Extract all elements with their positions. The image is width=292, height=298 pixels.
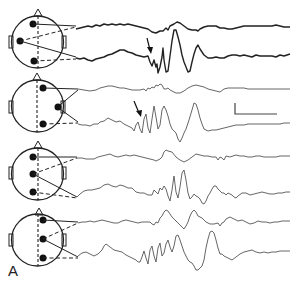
- nose-icon: [34, 141, 42, 148]
- eeg-figure: A: [0, 0, 292, 298]
- scale-bar: [235, 103, 277, 114]
- eeg-trace: [77, 170, 290, 204]
- panel-label: A: [8, 262, 18, 279]
- eeg-trace: [76, 22, 290, 33]
- eeg-trace: [78, 210, 290, 229]
- nose-icon: [33, 73, 41, 80]
- montage-2: [9, 73, 290, 142]
- montage-4: [9, 208, 290, 270]
- eeg-trace: [78, 231, 290, 270]
- eeg-trace: [78, 103, 290, 142]
- eeg-trace: [78, 84, 290, 93]
- montage-1: [9, 9, 290, 73]
- eeg-trace: [77, 150, 290, 162]
- eeg-trace: [76, 30, 290, 73]
- nose-icon: [34, 9, 42, 16]
- montage-3: [9, 141, 290, 204]
